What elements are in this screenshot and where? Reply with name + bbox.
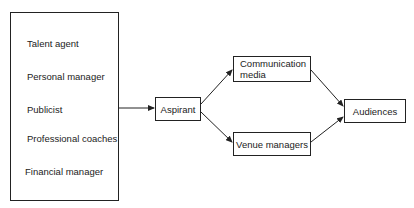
support-group-box: Talent agent Personal manager Publicist … bbox=[10, 12, 119, 201]
venue-managers-node: Venue managers bbox=[233, 132, 311, 156]
item-talent-agent: Talent agent bbox=[27, 38, 79, 49]
audiences-label: Audiences bbox=[353, 106, 397, 117]
communication-media-line2: media bbox=[240, 69, 310, 80]
item-publicist: Publicist bbox=[27, 104, 62, 115]
aspirant-node: Aspirant bbox=[155, 97, 201, 121]
item-professional-coaches: Professional coaches bbox=[27, 133, 117, 144]
aspirant-label: Aspirant bbox=[161, 104, 196, 115]
communication-media-line1: Communication bbox=[240, 58, 310, 69]
venue-managers-label: Venue managers bbox=[236, 139, 308, 150]
communication-media-node: Communication media bbox=[233, 56, 311, 82]
item-personal-manager: Personal manager bbox=[27, 71, 105, 82]
item-financial-manager: Financial manager bbox=[25, 166, 103, 177]
audiences-node: Audiences bbox=[344, 99, 406, 123]
